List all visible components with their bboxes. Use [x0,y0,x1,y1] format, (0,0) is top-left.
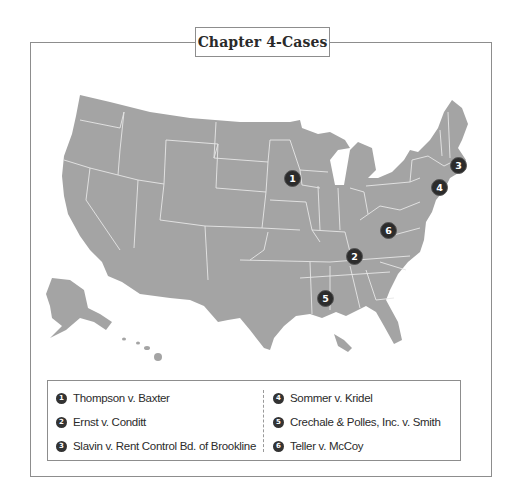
alaska [46,278,112,338]
hawaii [122,338,162,362]
number-badge-icon: 2 [56,417,67,428]
legend-label: Thompson v. Baxter [73,392,170,404]
legend-column-left: 1 Thompson v. Baxter 2 Ernst v. Conditt … [56,381,256,460]
legend-label: Sommer v. Kridel [290,392,373,404]
legend-label: Crechale & Polles, Inc. v. Smith [290,416,441,428]
number-badge-icon: 1 [56,393,67,404]
case-marker-6[interactable]: 6 [380,222,397,239]
contiguous-us [62,95,468,352]
case-marker-2[interactable]: 2 [346,248,363,265]
legend: 1 Thompson v. Baxter 2 Ernst v. Conditt … [47,380,461,461]
legend-divider [263,390,264,452]
legend-label: Teller v. McCoy [290,440,363,452]
legend-item-5: 5 Crechale & Polles, Inc. v. Smith [273,414,441,430]
legend-item-4: 4 Sommer v. Kridel [273,390,373,406]
number-badge-icon: 5 [273,417,284,428]
number-badge-icon: 4 [273,393,284,404]
case-marker-5[interactable]: 5 [317,290,334,307]
legend-label: Ernst v. Conditt [73,416,146,428]
legend-label: Slavin v. Rent Control Bd. of Brookline [73,440,256,452]
number-badge-icon: 6 [273,441,284,452]
legend-item-1: 1 Thompson v. Baxter [56,390,170,406]
case-marker-4[interactable]: 4 [431,179,448,196]
figure-title: Chapter 4-Cases [198,34,328,50]
case-marker-3[interactable]: 3 [450,157,467,174]
case-marker-1[interactable]: 1 [284,170,301,187]
legend-item-6: 6 Teller v. McCoy [273,438,363,454]
title-box: Chapter 4-Cases [195,27,330,57]
legend-column-right: 4 Sommer v. Kridel 5 Crechale & Polles, … [273,381,458,460]
number-badge-icon: 3 [56,441,67,452]
legend-item-2: 2 Ernst v. Conditt [56,414,146,430]
legend-item-3: 3 Slavin v. Rent Control Bd. of Brooklin… [56,438,256,454]
